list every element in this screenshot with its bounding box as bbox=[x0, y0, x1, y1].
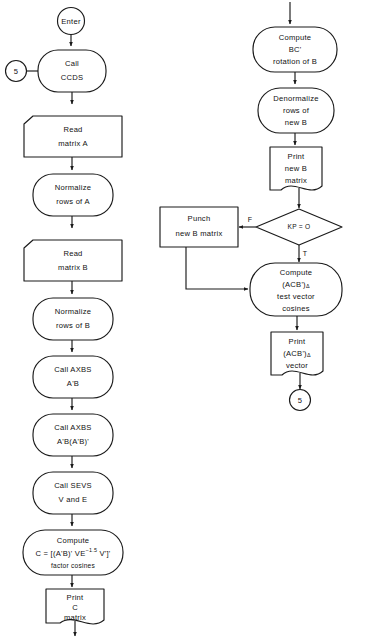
node-compute-acb-notation: (ACB')Δ bbox=[282, 280, 310, 290]
node-print-acb-line1: Print bbox=[289, 337, 307, 346]
node-compute-bc-line3: rotation of B bbox=[273, 57, 317, 66]
node-punch-new-b-line2: new B matrix bbox=[176, 229, 223, 238]
node-decision-kp-label: KP = O bbox=[288, 223, 311, 230]
formula-suffix: V']' bbox=[97, 549, 111, 558]
terminal-enter-label: Enter bbox=[61, 17, 81, 26]
node-read-matrix-a-line2: matrix A bbox=[58, 139, 88, 148]
node-call-sevs-line1: Call SEVS bbox=[54, 481, 92, 490]
node-print-acb-line3: vector bbox=[286, 361, 308, 370]
arrow-punch-to-computeacb bbox=[186, 247, 248, 289]
connector-5-out-label: 5 bbox=[298, 396, 302, 405]
node-compute-bc-line2: BC' bbox=[289, 45, 302, 54]
node-read-matrix-b-line2: matrix B bbox=[58, 263, 88, 272]
node-compute-c-caption: factor cosines bbox=[51, 562, 96, 569]
node-compute-acb-line1: Compute bbox=[280, 268, 313, 277]
node-call-axbs-1-line1: Call AXBS bbox=[54, 365, 91, 374]
node-normalize-rows-b bbox=[33, 298, 113, 340]
node-print-c-line3: matrix bbox=[64, 613, 86, 622]
node-call-ccds-line2: CCDS bbox=[61, 73, 84, 82]
node-read-matrix-b-line1: Read bbox=[63, 249, 82, 258]
node-call-ccds bbox=[38, 50, 106, 92]
node-normalize-rows-b-line1: Normalize bbox=[55, 307, 91, 316]
node-print-new-b-line2: new B bbox=[285, 164, 307, 173]
acb-subscript-1: Δ bbox=[306, 284, 310, 290]
connector-5-in-label: 5 bbox=[14, 67, 18, 76]
node-punch-new-b bbox=[160, 207, 238, 247]
flowchart-svg: Enter 5 Call CCDS Read matrix A Normaliz… bbox=[0, 0, 370, 638]
node-normalize-rows-a-line2: rows of A bbox=[56, 197, 90, 206]
node-call-axbs-1-line2: A'B bbox=[67, 379, 79, 388]
branch-label-true: T bbox=[303, 250, 308, 257]
node-punch-new-b-line1: Punch bbox=[188, 214, 211, 223]
formula-exponent: −1.5 bbox=[85, 547, 97, 553]
node-call-axbs-2-line2: A'B(A'B)' bbox=[57, 437, 89, 446]
node-call-axbs-2 bbox=[33, 414, 113, 456]
node-print-acb-notation: (ACB')Δ bbox=[283, 349, 311, 359]
acb-subscript-2: Δ bbox=[307, 353, 311, 359]
node-call-ccds-line1: Call bbox=[65, 59, 79, 68]
node-call-axbs-1 bbox=[33, 356, 113, 398]
node-denormalize-line3: new B bbox=[285, 118, 307, 127]
node-compute-acb-line4: cosines bbox=[282, 304, 310, 313]
flowchart-canvas: Enter 5 Call CCDS Read matrix A Normaliz… bbox=[0, 0, 370, 638]
node-normalize-rows-a bbox=[33, 174, 113, 216]
acb-base-1: (ACB') bbox=[282, 280, 306, 289]
node-compute-c-line1: Compute bbox=[57, 536, 90, 545]
node-call-sevs bbox=[33, 472, 113, 514]
node-call-axbs-2-line1: Call AXBS bbox=[54, 423, 91, 432]
node-print-c-line2: C bbox=[72, 603, 78, 612]
node-call-sevs-line2: V and E bbox=[59, 495, 88, 504]
node-compute-bc-line1: Compute bbox=[279, 33, 312, 42]
node-read-matrix-a-line1: Read bbox=[63, 125, 82, 134]
node-normalize-rows-b-line2: rows of B bbox=[56, 321, 90, 330]
acb-base-2: (ACB') bbox=[283, 349, 307, 358]
formula-prefix: C = [(A'B)' VE bbox=[35, 549, 85, 558]
node-denormalize-line2: rows of bbox=[283, 106, 310, 115]
node-compute-c-formula: C = [(A'B)' VE−1.5 V']' bbox=[35, 547, 110, 558]
node-normalize-rows-a-line1: Normalize bbox=[55, 183, 91, 192]
branch-label-false: F bbox=[248, 216, 252, 223]
node-compute-acb-line3: test vector bbox=[277, 292, 315, 301]
node-print-new-b-line1: Print bbox=[288, 152, 306, 161]
node-denormalize-line1: Denormalize bbox=[273, 94, 318, 103]
node-print-new-b-line3: matrix bbox=[285, 176, 307, 185]
node-read-matrix-a bbox=[24, 116, 122, 157]
node-read-matrix-b bbox=[24, 240, 122, 281]
node-print-c-line1: Print bbox=[67, 593, 85, 602]
